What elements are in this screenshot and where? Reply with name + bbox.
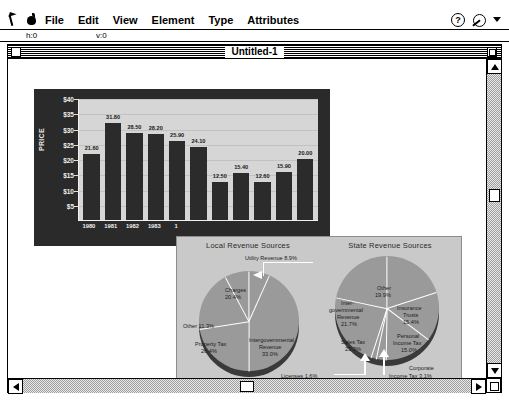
state-label-sales-pct: 23.3% bbox=[345, 346, 361, 353]
bar-chart-x-axis: 19801981198219831 bbox=[78, 223, 318, 235]
bar-chart-inner: PRICE $40$35$30$25$20$15$10$5 21.6031.80… bbox=[40, 99, 322, 242]
local-utility-callout-arrow bbox=[253, 271, 262, 279]
bar-chart-x-tick-label bbox=[233, 223, 250, 235]
state-label-insurance-pct: 15.4% bbox=[403, 319, 419, 326]
local-pie-title: Local Revenue Sources bbox=[177, 241, 319, 250]
local-slice-sep-1 bbox=[248, 272, 249, 322]
state-licenses-callout-stem bbox=[364, 359, 366, 375]
local-slice-sep-5 bbox=[248, 322, 249, 372]
scroll-arrow-right-icon[interactable] bbox=[471, 379, 486, 394]
menu-bar-right-group: ? bbox=[451, 13, 509, 27]
bar-chart-bar-value-label: 12.60 bbox=[256, 173, 270, 179]
menu-item-edit[interactable]: Edit bbox=[71, 11, 106, 29]
apple-logo-icon[interactable] bbox=[26, 13, 38, 27]
bar-chart-x-tick-label bbox=[211, 223, 228, 235]
bar-chart-bar-group: 15.40 bbox=[233, 99, 249, 220]
close-box-icon[interactable] bbox=[11, 47, 21, 57]
bar-chart-bar-value-label: 20.00 bbox=[298, 150, 312, 156]
horizontal-scrollbar[interactable] bbox=[8, 378, 486, 393]
state-label-inter-name3: Revenue bbox=[337, 314, 359, 321]
pointer-arrow-icon bbox=[8, 13, 19, 27]
bar-chart-y-tick: $15 bbox=[63, 172, 74, 179]
scroll-arrow-down-icon[interactable] bbox=[487, 363, 502, 378]
document-canvas[interactable]: PRICE $40$35$30$25$20$15$10$5 21.6031.80… bbox=[8, 59, 486, 378]
chevron-down-icon[interactable] bbox=[493, 17, 501, 22]
menu-item-element[interactable]: Element bbox=[145, 11, 202, 29]
bar-chart-bar-group: 20.00 bbox=[297, 99, 313, 220]
bar-chart-bar-value-label: 25.90 bbox=[170, 132, 184, 138]
state-pie-title: State Revenue Sources bbox=[319, 241, 461, 250]
vertical-scrollbar-thumb[interactable] bbox=[489, 189, 500, 202]
local-label-inter-pct: 33.0% bbox=[262, 351, 278, 358]
bar-chart-x-tick-label bbox=[255, 223, 272, 235]
bar-chart-bar-value-label: 28.50 bbox=[127, 124, 141, 130]
state-label-insurance-name: Insurance bbox=[397, 305, 422, 312]
coordinate-readout-bar: h:0 v:0 bbox=[0, 31, 509, 42]
bar-chart-image[interactable]: PRICE $40$35$30$25$20$15$10$5 21.6031.80… bbox=[34, 89, 330, 246]
horizontal-scrollbar-thumb[interactable] bbox=[240, 381, 254, 392]
bar-chart-bar-group: 24.10 bbox=[190, 99, 206, 220]
window-title-bar[interactable]: Untitled-1 bbox=[8, 45, 501, 59]
bar-chart-y-tick: $10 bbox=[63, 187, 74, 194]
bar-chart-y-tick: $40 bbox=[63, 96, 74, 103]
scroll-arrow-left-icon[interactable] bbox=[8, 379, 23, 394]
bar-chart-bars: 21.6031.8028.5028.2025.9024.1012.5015.40… bbox=[79, 99, 318, 220]
coordinate-v-readout: v:0 bbox=[96, 31, 107, 40]
bar-chart-y-tick: $5 bbox=[67, 202, 74, 209]
state-label-insurance-name2: Trusts bbox=[403, 312, 418, 319]
bar-chart-bar: 15.40 bbox=[233, 173, 249, 220]
bar-chart-y-tick: $35 bbox=[63, 111, 74, 118]
menu-item-attributes[interactable]: Attributes bbox=[240, 11, 306, 29]
bar-chart-bar: 24.10 bbox=[190, 147, 206, 221]
local-label-charges-name: Charges bbox=[225, 287, 246, 294]
state-label-inter-name: Inter- bbox=[341, 300, 354, 307]
menu-item-file[interactable]: File bbox=[38, 11, 71, 29]
scroll-arrow-up-icon[interactable] bbox=[487, 59, 502, 74]
state-licenses-callout-arrow bbox=[360, 353, 370, 361]
bar-chart-bar-group: 12.60 bbox=[254, 99, 270, 220]
state-licenses-callout-line bbox=[334, 374, 366, 375]
bar-chart-bar-group: 28.20 bbox=[148, 99, 164, 220]
window-title: Untitled-1 bbox=[225, 46, 283, 58]
application-switcher-icon[interactable] bbox=[472, 13, 486, 27]
state-label-inter-name2: governmental bbox=[329, 307, 363, 314]
local-label-inter-name2: Revenue bbox=[259, 344, 281, 351]
state-label-personal-name: Personal bbox=[397, 333, 419, 340]
bar-chart-y-tick: $20 bbox=[63, 157, 74, 164]
coordinate-h-readout: h:0 bbox=[26, 31, 37, 40]
bar-chart-x-tick-label: 1980 bbox=[81, 223, 98, 235]
bar-chart-bar-group: 31.80 bbox=[105, 99, 121, 220]
bar-chart-bar: 12.50 bbox=[212, 182, 228, 220]
bar-chart-bar: 31.80 bbox=[105, 123, 121, 220]
menu-item-view[interactable]: View bbox=[106, 11, 145, 29]
app-root: File Edit View Element Type Attributes ?… bbox=[0, 0, 509, 415]
help-question-icon[interactable]: ? bbox=[451, 13, 465, 27]
bar-chart-x-tick-label: 1983 bbox=[146, 223, 163, 235]
pie-charts-image[interactable]: Local Revenue Sources bbox=[176, 236, 462, 378]
local-pie-disc bbox=[199, 271, 299, 371]
grow-box-icon[interactable] bbox=[486, 378, 501, 393]
bar-chart-y-tick: $30 bbox=[63, 126, 74, 133]
menu-item-type[interactable]: Type bbox=[201, 11, 240, 29]
local-revenue-pie-chart: Local Revenue Sources bbox=[177, 237, 319, 378]
bar-chart-bar: 12.60 bbox=[254, 182, 270, 220]
local-label-property-pct: 26.4% bbox=[201, 348, 217, 355]
bar-chart-y-axis: $40$35$30$25$20$15$10$5 bbox=[48, 99, 78, 219]
state-label-other-name: Other bbox=[377, 285, 391, 292]
bar-chart-bar: 28.20 bbox=[148, 134, 164, 220]
bar-chart-plot-area: 21.6031.8028.5028.2025.9024.1012.5015.40… bbox=[78, 99, 318, 221]
bar-chart-x-tick-label: 1 bbox=[168, 223, 185, 235]
bar-chart-x-tick-label: 1982 bbox=[124, 223, 141, 235]
zoom-box-icon[interactable] bbox=[487, 47, 497, 57]
state-label-corporate-name: Corporate bbox=[409, 365, 434, 372]
bar-chart-bar: 15.90 bbox=[276, 172, 292, 220]
bar-chart-bar-value-label: 28.20 bbox=[149, 125, 163, 131]
bar-chart-bar-group: 15.90 bbox=[276, 99, 292, 220]
vertical-scrollbar[interactable] bbox=[486, 59, 501, 378]
state-corporate-callout-stem bbox=[383, 355, 385, 375]
bar-chart-bar-value-label: 12.50 bbox=[213, 173, 227, 179]
menu-bar: File Edit View Element Type Attributes ? bbox=[0, 10, 509, 30]
state-revenue-pie-chart: State Revenue Sources bbox=[319, 237, 461, 378]
bar-chart-bar-group: 21.60 bbox=[83, 99, 99, 220]
window-body: PRICE $40$35$30$25$20$15$10$5 21.6031.80… bbox=[8, 59, 501, 393]
